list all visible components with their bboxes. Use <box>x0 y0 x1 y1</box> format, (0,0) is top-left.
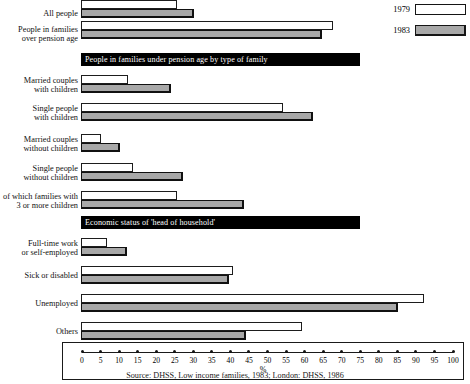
x-axis-tick-label: 95 <box>431 356 439 365</box>
x-axis-tick <box>322 350 325 353</box>
x-axis-tick <box>359 350 362 353</box>
x-axis-tick <box>99 350 102 353</box>
bar-1979-married-with-children <box>81 75 128 84</box>
x-axis-tick-label: 0 <box>80 356 84 365</box>
category-label-single-with-children: Single people with children <box>0 104 78 122</box>
category-label-three-or-more-children: of which families with 3 or more childre… <box>0 192 78 210</box>
bars-married-without-children <box>81 134 120 152</box>
bar-1983-unemployed <box>81 303 398 312</box>
legend-label-1983: 1983 <box>393 26 410 35</box>
section-header-family-type: People in families under pension age by … <box>81 53 360 66</box>
bar-1979-over-pension-age <box>81 21 333 30</box>
x-axis-tick-label: 35 <box>208 356 216 365</box>
category-label-single-without-children: Single people without children <box>0 164 78 182</box>
x-axis-tick-label: 45 <box>245 356 253 365</box>
bars-single-without-children <box>81 163 183 181</box>
bars-others <box>81 322 302 340</box>
bar-1983-all-people <box>81 9 194 18</box>
x-axis-tick-label: 50 <box>264 356 272 365</box>
source-note: Source: DHSS, Low income families, 1983;… <box>0 371 470 384</box>
category-label-married-with-children: Married couples with children <box>0 76 78 94</box>
bars-all-people <box>81 0 194 18</box>
category-label-all-people: All people <box>0 9 78 18</box>
x-axis-tick <box>303 350 306 353</box>
bar-1983-single-without-children <box>81 172 183 181</box>
bar-1979-others <box>81 322 302 331</box>
x-axis-tick <box>229 350 232 353</box>
bar-1983-married-without-children <box>81 143 120 152</box>
section-header-economic-status: Economic status of 'head of household' <box>81 216 360 229</box>
x-axis-line: 0510152025303540455055606570758085909510… <box>82 352 453 353</box>
bar-1983-sick-or-disabled <box>81 275 229 284</box>
x-axis-tick-label: 85 <box>394 356 402 365</box>
legend-swatch-1983 <box>415 25 466 36</box>
bars-single-with-children <box>81 103 313 121</box>
x-axis-tick-label: 10 <box>115 356 123 365</box>
x-axis-tick <box>340 350 343 353</box>
x-axis-tick <box>247 350 250 353</box>
x-axis-tick <box>81 350 84 353</box>
bar-1979-single-with-children <box>81 103 283 112</box>
chart-legend: 1979 1983 <box>374 2 466 44</box>
category-label-unemployed: Unemployed <box>0 299 78 308</box>
x-axis-tick <box>396 350 399 353</box>
x-axis-tick <box>266 350 269 353</box>
x-axis-tick <box>173 350 176 353</box>
x-axis-tick <box>285 350 288 353</box>
bars-unemployed <box>81 294 424 312</box>
x-axis-tick-label: 100 <box>447 356 458 365</box>
category-label-married-without-children: Married couples without children <box>0 135 78 153</box>
legend-item-1983: 1983 <box>374 23 466 37</box>
x-axis-tick <box>433 350 436 353</box>
bar-1979-three-or-more-children <box>81 191 177 200</box>
x-axis-tick <box>377 350 380 353</box>
x-axis-tick-label: 40 <box>227 356 235 365</box>
bar-1979-single-without-children <box>81 163 133 172</box>
bar-1983-single-with-children <box>81 112 313 121</box>
bar-1983-full-time-work <box>81 247 127 256</box>
category-label-others: Others <box>0 327 78 336</box>
x-axis-tick-label: 30 <box>190 356 198 365</box>
x-axis-tick-label: 15 <box>134 356 142 365</box>
x-axis-tick-label: 70 <box>338 356 346 365</box>
bar-1979-all-people <box>81 0 177 9</box>
x-axis-tick-label: 80 <box>375 356 383 365</box>
x-axis-tick <box>155 350 158 353</box>
x-axis-tick <box>452 350 455 353</box>
x-axis-tick <box>136 350 139 353</box>
legend-item-1979: 1979 <box>374 2 466 16</box>
bars-sick-or-disabled <box>81 266 233 284</box>
bars-full-time-work <box>81 238 127 256</box>
bars-over-pension-age <box>81 21 333 39</box>
x-axis-tick-label: 75 <box>356 356 364 365</box>
category-label-full-time-work: Full-time work or self-employed <box>0 239 78 257</box>
bar-1983-three-or-more-children <box>81 200 244 209</box>
bar-1979-full-time-work <box>81 238 107 247</box>
x-axis-tick <box>414 350 417 353</box>
x-axis-tick-label: 5 <box>99 356 103 365</box>
bar-1983-married-with-children <box>81 84 171 93</box>
bar-1979-married-without-children <box>81 134 101 143</box>
category-label-over-pension-age: People in families over pension age <box>0 25 78 43</box>
x-axis-tick-label: 90 <box>412 356 420 365</box>
x-axis-tick <box>118 350 121 353</box>
x-axis-tick <box>192 350 195 353</box>
bar-1979-unemployed <box>81 294 424 303</box>
bar-1979-sick-or-disabled <box>81 266 233 275</box>
x-axis-tick-label: 60 <box>301 356 309 365</box>
x-axis-tick-label: 55 <box>282 356 290 365</box>
bar-1983-others <box>81 331 246 340</box>
legend-swatch-1979 <box>415 4 466 15</box>
bar-1983-over-pension-age <box>81 30 322 39</box>
low-income-families-bar-chart: 1979 1983 All people People in families … <box>0 0 470 384</box>
bars-three-or-more-children <box>81 191 244 209</box>
category-label-sick-or-disabled: Sick or disabled <box>0 271 78 280</box>
x-axis-tick <box>210 350 213 353</box>
bars-married-with-children <box>81 75 171 93</box>
x-axis-tick-label: 20 <box>152 356 160 365</box>
x-axis-tick-label: 25 <box>171 356 179 365</box>
legend-label-1979: 1979 <box>393 5 410 14</box>
x-axis-tick-label: 65 <box>319 356 327 365</box>
